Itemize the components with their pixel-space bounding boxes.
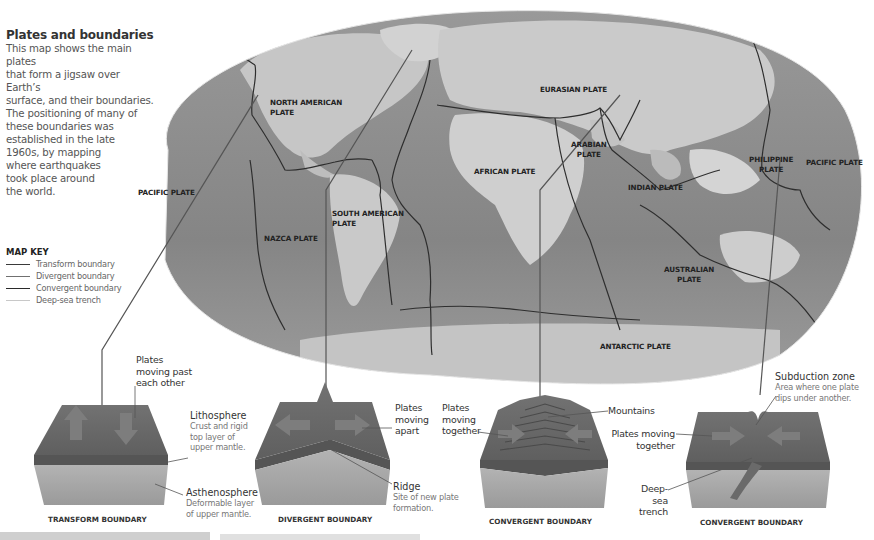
intro-line: these boundaries was xyxy=(6,120,156,133)
intro-line: where earthquakes xyxy=(6,159,156,172)
plate-label-line: INDIAN PLATE xyxy=(628,183,683,193)
plate-label-line: NAZCA PLATE xyxy=(264,234,318,244)
map-key-item: Divergent boundary xyxy=(6,271,114,281)
annotation-line: moving past xyxy=(136,366,192,378)
plate-label-line: PHILIPPINE xyxy=(749,155,793,165)
asthenosphere-title: Asthenosphere xyxy=(186,487,258,498)
annotation-line: apart xyxy=(395,425,429,437)
map-key-item: Convergent boundary xyxy=(6,283,121,293)
transform-boundary-swatch xyxy=(6,264,30,265)
intro-line: the world. xyxy=(6,185,156,198)
intro-line: surface, and their boundaries. xyxy=(6,94,156,107)
intro-title: Plates and boundaries xyxy=(6,28,153,42)
plate-label-line: PLATE xyxy=(270,108,342,118)
plate-label-african: AFRICAN PLATE xyxy=(474,167,535,177)
plate-label-line: ARABIAN xyxy=(571,140,607,150)
plate-label-line: PACIFIC PLATE xyxy=(138,188,195,198)
convergent-subduction-block xyxy=(668,396,830,508)
transform-boundary-caption: TRANSFORM BOUNDARY xyxy=(48,515,147,524)
annotation-line: Deformable layer xyxy=(186,498,258,509)
plate-label-philippine: PHILIPPINE PLATE xyxy=(749,155,793,175)
subduction-title: Subduction zone xyxy=(775,371,859,382)
intro-line: This map shows the main plates xyxy=(6,42,156,68)
convergent-subduction-caption: CONVERGENT BOUNDARY xyxy=(700,518,803,527)
intro-body: This map shows the main plates that form… xyxy=(6,42,156,198)
lithosphere-title: Lithosphere xyxy=(190,410,248,421)
convergent-motion-label: Plates moving together xyxy=(442,402,481,437)
intro-line: The positioning of many of xyxy=(6,107,156,120)
divergent-boundary-block xyxy=(255,382,392,505)
annotation-line: moving xyxy=(442,414,481,426)
plate-label-arabian: ARABIAN PLATE xyxy=(571,140,607,160)
annotation-line: Plates xyxy=(136,354,192,366)
lithosphere-annotation: Lithosphere Crust and rigid top layer of… xyxy=(190,410,248,453)
deep-sea-trench-label: Deep-sea trench xyxy=(630,483,668,518)
mountains-label: Mountains xyxy=(608,405,655,417)
annotation-line: Plates moving xyxy=(599,428,675,440)
intro-line: that form a jigsaw over Earth’s xyxy=(6,68,156,94)
subduction-zone-annotation: Subduction zone Area where one plate dip… xyxy=(775,371,859,403)
convergent-boundary-swatch xyxy=(6,288,30,289)
divergent-boundary-swatch xyxy=(6,276,30,277)
divergent-boundary-caption: DIVERGENT BOUNDARY xyxy=(278,515,372,524)
map-key-label: Divergent boundary xyxy=(36,271,114,281)
subduction-motion-label: Plates moving together xyxy=(619,428,675,451)
convergent-mountains-caption: CONVERGENT BOUNDARY xyxy=(489,517,592,526)
plate-label-north-american: NORTH AMERICAN PLATE xyxy=(270,98,342,118)
lithosphere-top xyxy=(34,405,168,455)
map-key-item: Transform boundary xyxy=(6,259,115,269)
plate-label-pacific-west: PACIFIC PLATE xyxy=(138,188,195,198)
convergent-mountains-block xyxy=(478,395,608,508)
annotation-line: together xyxy=(619,440,675,452)
plate-label-eurasian: EURASIAN PLATE xyxy=(540,85,607,95)
annotation-line: formation. xyxy=(393,503,459,514)
pointer-line xyxy=(168,458,188,462)
plate-label-indian: INDIAN PLATE xyxy=(628,183,683,193)
asthenosphere-annotation: Asthenosphere Deformable layer of upper … xyxy=(186,487,258,519)
plate-label-line: AUSTRALIAN xyxy=(664,265,714,275)
deep-sea-trench-swatch xyxy=(6,300,30,301)
annotation-line: of upper mantle. xyxy=(186,509,258,520)
asthenosphere-block xyxy=(34,465,168,505)
annotation-line: dips under another. xyxy=(775,393,859,404)
plate-label-line: AFRICAN PLATE xyxy=(474,167,535,177)
annotation-line: Plates xyxy=(442,402,481,414)
asthenosphere-block xyxy=(686,470,830,508)
map-key-label: Deep-sea trench xyxy=(36,295,101,305)
transform-boundary-block xyxy=(34,386,188,505)
plate-label-line: NORTH AMERICAN xyxy=(270,98,342,108)
plate-label-nazca: NAZCA PLATE xyxy=(264,234,318,244)
page-edge-strip xyxy=(0,532,210,540)
divergent-motion-label: Plates moving apart xyxy=(395,402,429,437)
annotation-line: together xyxy=(442,425,481,437)
annotation-line: moving xyxy=(395,414,429,426)
plate-label-line: EURASIAN PLATE xyxy=(540,85,607,95)
plate-label-line: PACIFIC PLATE xyxy=(806,158,863,168)
lithosphere-edge xyxy=(34,455,168,465)
plate-label-south-american: SOUTH AMERICAN PLATE xyxy=(332,209,404,229)
annotation-line: trench xyxy=(630,506,668,518)
annotation-line: Site of new plate xyxy=(393,492,459,503)
lithosphere-top xyxy=(686,411,830,462)
annotation-line: Deep-sea xyxy=(630,483,668,506)
intro-line: 1960s, by mapping xyxy=(6,146,156,159)
ridge-title: Ridge xyxy=(393,481,459,492)
intro-line: took place around xyxy=(6,172,156,185)
map-key-label: Transform boundary xyxy=(36,259,115,269)
page-edge-strip xyxy=(220,534,420,540)
plate-label-antarctic: ANTARCTIC PLATE xyxy=(600,342,671,352)
plate-label-line: SOUTH AMERICAN xyxy=(332,209,404,219)
map-key-item: Deep-sea trench xyxy=(6,295,101,305)
plate-label-australian: AUSTRALIAN PLATE xyxy=(664,265,714,285)
intro-line: established in the late xyxy=(6,133,156,146)
annotation-line: upper mantle. xyxy=(190,442,248,453)
ridge-annotation: Ridge Site of new plate formation. xyxy=(393,481,459,513)
annotation-line: Area where one plate xyxy=(775,382,859,393)
annotation-line: top layer of xyxy=(190,432,248,443)
plate-label-line: PLATE xyxy=(664,275,714,285)
plate-label-line: PLATE xyxy=(749,165,793,175)
plate-label-pacific-east: PACIFIC PLATE xyxy=(806,158,863,168)
plate-label-line: PLATE xyxy=(332,219,404,229)
annotation-line: Plates xyxy=(395,402,429,414)
map-key-title: MAP KEY xyxy=(6,247,49,257)
